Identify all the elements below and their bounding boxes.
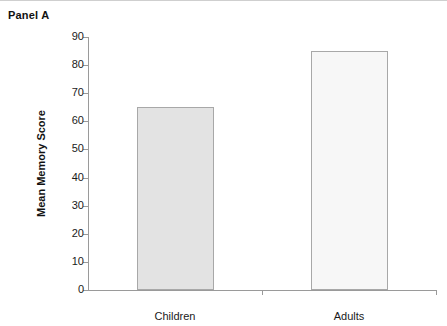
y-tick-label: 90	[72, 29, 84, 44]
y-tick-40: 40	[88, 178, 89, 179]
y-tick-label: 60	[72, 113, 84, 128]
x-tick-mark	[436, 290, 437, 295]
y-tick-label: 80	[72, 57, 84, 72]
y-tick-70: 70	[88, 93, 89, 94]
page-title: Panel A	[8, 8, 49, 22]
x-category-label-adults: Adults	[262, 309, 436, 324]
bar-children	[137, 107, 214, 290]
scan-top-rule	[0, 0, 447, 1]
y-tick-label: 20	[72, 226, 84, 241]
y-tick-label: 0	[78, 282, 84, 297]
y-tick-10: 10	[88, 262, 89, 263]
x-category-label-children: Children	[88, 309, 262, 324]
y-tick-80: 80	[88, 65, 89, 66]
y-tick-label: 30	[72, 198, 84, 213]
y-axis-title: Mean Memory Score	[34, 37, 48, 290]
y-tick-label: 50	[72, 141, 84, 156]
y-axis-line	[88, 37, 89, 291]
y-tick-30: 30	[88, 206, 89, 207]
y-tick-label: 40	[72, 170, 84, 185]
plot-area: 9080706050403020100 ChildrenAdults	[88, 37, 436, 290]
y-tick-60: 60	[88, 121, 89, 122]
y-tick-label: 70	[72, 85, 84, 100]
y-tick-90: 90	[88, 37, 89, 38]
bar-chart-figure: Panel A Mean Memory Score 90807060504030…	[0, 0, 447, 326]
y-tick-20: 20	[88, 234, 89, 235]
bar-adults	[311, 51, 388, 290]
y-tick-label: 10	[72, 254, 84, 269]
x-tick-mark	[262, 290, 263, 295]
y-tick-0: 0	[88, 290, 89, 291]
y-tick-50: 50	[88, 149, 89, 150]
